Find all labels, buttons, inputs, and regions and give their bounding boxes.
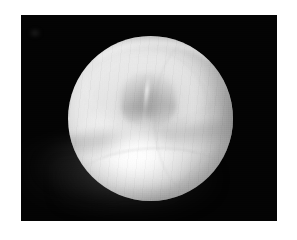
- onion-bulb: [68, 36, 233, 201]
- backdrop-speck: [29, 29, 41, 37]
- photograph-plate: [21, 15, 277, 221]
- bulb-silhouette: [68, 36, 233, 201]
- image-canvas: [0, 0, 297, 240]
- skin-striations: [68, 36, 233, 201]
